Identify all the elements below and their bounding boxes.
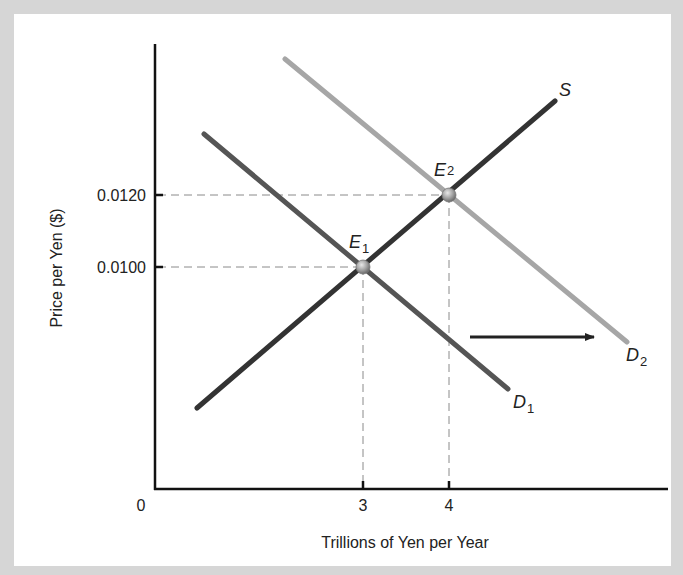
- equilibrium-e1-dot: [356, 260, 370, 274]
- d1-curve: [204, 134, 508, 389]
- origin-label: 0: [137, 497, 146, 514]
- y-tick-label-0120: 0.0120: [97, 187, 146, 204]
- e1-label: E1: [349, 232, 369, 256]
- guide-lines: [158, 195, 449, 486]
- x-axis-title: Trillions of Yen per Year: [321, 534, 489, 551]
- d2-label: D2: [626, 345, 647, 369]
- y-tick-label-0100: 0.0100: [97, 259, 146, 276]
- s-label: S: [559, 80, 571, 100]
- y-axis-title: Price per Yen ($): [48, 208, 65, 327]
- supply-curve: [197, 101, 555, 408]
- x-tick-label-4: 4: [445, 497, 454, 514]
- d2-curve: [285, 59, 627, 342]
- axes: [154, 44, 668, 490]
- x-tick-label-3: 3: [359, 497, 368, 514]
- e2-label: E2: [434, 160, 454, 180]
- equilibrium-e2-dot: [442, 188, 456, 202]
- d1-label: D1: [513, 392, 534, 416]
- supply-demand-chart: E1 E2 S D1 D2 0.0120 0.0100 0 3 4 Trilli…: [0, 0, 683, 575]
